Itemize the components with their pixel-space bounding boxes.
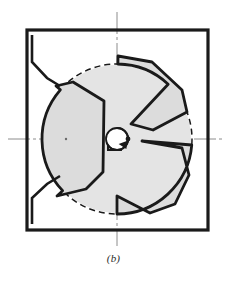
- rotary-vane-diagram: [0, 0, 227, 281]
- shaft-center-dot: [126, 137, 131, 142]
- figure-container: (b): [0, 0, 227, 281]
- figure-caption: (b): [0, 252, 227, 264]
- disc-center-tick: [65, 138, 67, 140]
